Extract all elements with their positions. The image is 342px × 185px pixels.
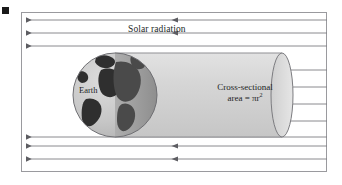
cross-section-line-2: area = πr2 xyxy=(207,93,283,103)
corner-mark xyxy=(2,7,9,14)
cross-section-line-1: Cross-sectional xyxy=(217,82,273,92)
cross-sectional-area-label: Cross-sectional area = πr2 xyxy=(207,82,283,104)
solar-radiation-diagram: Solar radiation Earth Cross-sectional ar… xyxy=(0,0,342,185)
earth-label: Earth xyxy=(79,86,97,96)
area-equals-text: area = xyxy=(227,93,252,103)
solar-radiation-label: Solar radiation xyxy=(128,24,186,35)
exponent-two: 2 xyxy=(260,92,263,98)
pi-r-symbol: πr xyxy=(252,93,260,103)
